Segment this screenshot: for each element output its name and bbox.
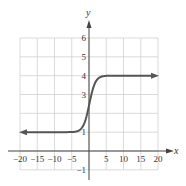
x-tick-labels: −20−15−10−55101520: [13, 154, 163, 164]
x-tick-label: −5: [67, 154, 77, 164]
y-tick-label: 6: [82, 33, 87, 43]
x-tick-label: 15: [136, 154, 146, 164]
x-tick-label: 5: [104, 154, 109, 164]
y-axis-arrow-icon: [87, 20, 92, 28]
x-tick-label: 20: [154, 154, 164, 164]
x-tick-label: −15: [30, 154, 45, 164]
x-tick-label: −10: [47, 154, 62, 164]
y-tick-label: 5: [82, 52, 87, 62]
y-axis-label: y: [85, 7, 91, 18]
x-tick-label: 10: [119, 154, 129, 164]
x-axis-arrow-icon: [166, 149, 174, 154]
y-tick-label: −1: [76, 165, 86, 175]
y-tick-labels: −113456: [76, 33, 86, 175]
function-curve: [23, 76, 151, 133]
x-axis-label: x: [173, 145, 179, 156]
y-tick-label: 4: [82, 71, 87, 81]
chart: −20−15−10−55101520 −113456 x y: [0, 0, 186, 186]
x-tick-label: −20: [13, 154, 28, 164]
y-tick-label: 3: [82, 90, 87, 100]
